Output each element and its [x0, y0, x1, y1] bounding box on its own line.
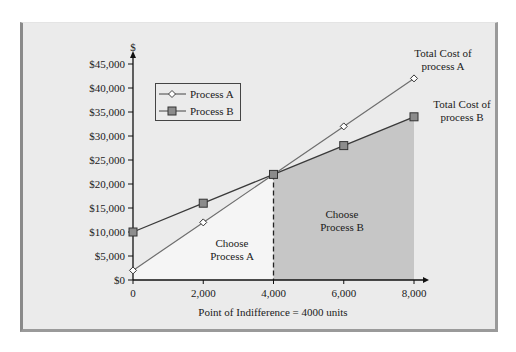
y-tick-label: $20,000: [89, 178, 125, 190]
square-marker-icon: [270, 170, 278, 178]
legend-label-process-a: Process A: [190, 88, 234, 100]
annotation-text: Choose: [192, 237, 272, 250]
x-tick-label: 6,000: [331, 287, 356, 299]
annotation-choose-a: Choose Process A: [192, 237, 272, 263]
diamond-marker-icon: [340, 123, 347, 130]
annotation-choose-b: Choose Process B: [302, 208, 382, 234]
x-axis-arrow-icon: [423, 277, 429, 283]
annotation-text: Total Cost of: [398, 47, 488, 60]
x-axis-caption: Point of Indifference = 4000 units: [163, 306, 383, 319]
annotation-text: Process A: [192, 250, 272, 263]
x-tick-label: 0: [130, 287, 136, 299]
x-tick-label: 2,000: [191, 287, 216, 299]
annotation-text: Choose: [302, 208, 382, 221]
y-tick-label: $35,000: [89, 106, 125, 118]
annotation-text: Total Cost of: [417, 98, 507, 111]
annotation-total-cost-b: Total Cost of process B: [417, 98, 507, 124]
diamond-marker-icon: [411, 75, 418, 82]
legend: Process A Process B: [155, 83, 241, 121]
square-marker-icon: [156, 102, 190, 120]
annotation-text: process B: [417, 111, 507, 124]
square-marker-icon: [129, 228, 137, 236]
legend-label-process-b: Process B: [190, 105, 234, 117]
y-tick-label: $40,000: [89, 82, 125, 94]
y-tick-label: $5,000: [95, 250, 126, 262]
y-tick-label: $10,000: [89, 226, 125, 238]
y-tick-label: $45,000: [89, 58, 125, 70]
square-marker-icon: [340, 142, 348, 150]
y-tick-label: $25,000: [89, 154, 125, 166]
annotation-text: process A: [398, 60, 488, 73]
x-tick-label: 8,000: [402, 287, 427, 299]
annotation-total-cost-a: Total Cost of process A: [398, 47, 488, 73]
diamond-marker-icon: [156, 85, 190, 103]
y-tick-label: $15,000: [89, 202, 125, 214]
y-tick-label: $0: [114, 274, 126, 286]
square-marker-icon: [199, 199, 207, 207]
y-tick-label: $30,000: [89, 130, 125, 142]
region-choose-a: [133, 174, 274, 280]
annotation-text: Process B: [302, 221, 382, 234]
y-axis-unit-label: $: [123, 41, 143, 54]
x-tick-label: 4,000: [261, 287, 286, 299]
